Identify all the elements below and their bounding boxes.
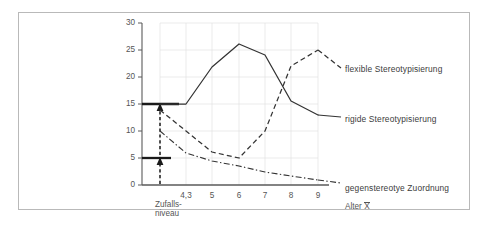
xtick-label-9: 9 [308, 191, 328, 200]
y-tick-marks [138, 23, 142, 185]
legend-label-gegenstereotyp: gegenstereotye Zuordnung [345, 183, 449, 193]
ytick-label-15: 15 [117, 99, 135, 108]
ytick-label-5: 5 [117, 153, 135, 162]
series-leader-flexible [318, 50, 341, 68]
ytick-label-20: 20 [117, 72, 135, 81]
xtick-label-7: 7 [255, 191, 275, 200]
xtick-label-8: 8 [281, 191, 301, 200]
legend-label-flexible: flexible Stereotypisierung [345, 64, 442, 74]
zufall-line-2: niveau [155, 210, 182, 219]
line-chart [19, 13, 471, 211]
x-axis-title-mean-symbol: X [364, 202, 369, 211]
figure-frame: 30 25 20 15 10 5 0 4,3 5 6 7 8 9 Zufalls… [18, 12, 470, 210]
series-leader-gegenstereotyp [318, 180, 341, 183]
annotation-reference-levels [142, 103, 179, 184]
ytick-label-0: 0 [117, 180, 135, 189]
xtick-label-5: 5 [202, 191, 222, 200]
legend-label-rigide: rigide Stereotypisierung [345, 114, 437, 124]
x-axis-title: Alter X [345, 202, 370, 211]
ytick-label-30: 30 [117, 18, 135, 27]
xtick-label-zufallsniveau: Zufalls- niveau [155, 201, 182, 218]
ytick-label-25: 25 [117, 45, 135, 54]
x-axis-title-text: Alter [345, 202, 362, 211]
xtick-label-6: 6 [229, 191, 249, 200]
ytick-label-10: 10 [117, 126, 135, 135]
series-leader-rigide [318, 115, 341, 117]
xtick-label-43: 4,3 [176, 191, 196, 200]
